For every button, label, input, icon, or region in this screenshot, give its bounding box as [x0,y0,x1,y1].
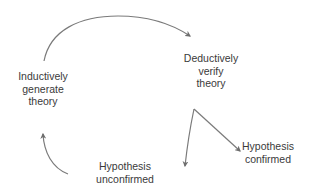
diagram-canvas: Inductively generate theory Deductively … [0,0,314,191]
node-deductively-verify-theory: Deductively verify theory [184,52,238,90]
arrow-deduct-to-confirmed [194,109,240,151]
node-label-line: generate [18,83,68,96]
arrow-induct-to-deduct [44,16,190,61]
node-hypothesis-unconfirmed: Hypothesis unconfirmed [96,160,154,185]
node-hypothesis-confirmed: Hypothesis confirmed [242,140,294,165]
node-label-line: Hypothesis [242,140,294,153]
node-label-line: Hypothesis [96,160,154,173]
node-label-line: confirmed [242,153,294,166]
node-inductively-generate-theory: Inductively generate theory [18,70,68,108]
node-label-line: Inductively [18,70,68,83]
arrow-deduct-to-unconfirmed [185,109,194,166]
node-label-line: unconfirmed [96,173,154,186]
node-label-line: Deductively [184,52,238,65]
node-label-line: theory [18,95,68,108]
node-label-line: verify [184,65,238,78]
node-label-line: theory [184,77,238,90]
arrow-unconfirmed-to-induct [43,134,68,174]
